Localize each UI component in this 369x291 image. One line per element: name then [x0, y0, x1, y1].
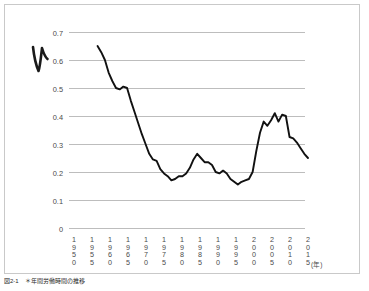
x-axis-tick-label: 2000 [248, 236, 260, 266]
x-axis-tick-label: 1975 [158, 236, 170, 266]
chart-plot-area: 0.7 0.6 0.5 0.4 0.3 0.2 0.1 0 1950 1955 … [5, 5, 361, 275]
x-axis-tick-label: 2010 [284, 236, 296, 266]
x-axis-tick-label: 1950 [68, 236, 80, 266]
x-axis-tick-label: 2005 [266, 236, 278, 266]
x-axis-tick-label: 1970 [140, 236, 152, 266]
x-axis-tick-label: 1960 [104, 236, 116, 266]
x-axis-tick-label: 1980 [176, 236, 188, 266]
handwritten-check-mark-icon [27, 45, 61, 81]
figure-frame: 0.7 0.6 0.5 0.4 0.3 0.2 0.1 0 1950 1955 … [4, 4, 360, 274]
x-axis-tick-label: 1955 [86, 236, 98, 266]
x-axis-tick-label: 1965 [122, 236, 134, 266]
x-axis-tick-label: 1990 [212, 236, 224, 266]
x-axis-tick-label: 1985 [194, 236, 206, 266]
figure-caption: 図2-1 ＊年間労働時間の推移 [4, 277, 364, 286]
x-axis-unit-label: (年) [311, 259, 322, 269]
x-axis-tick-label: 1995 [230, 236, 242, 266]
